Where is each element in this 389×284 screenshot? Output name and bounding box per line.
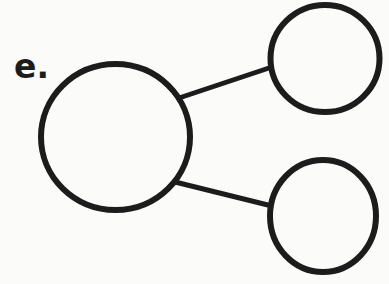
diagram-svg: e. bbox=[0, 0, 389, 284]
edge-large-circle-to-bottom-right-circle bbox=[167, 180, 280, 208]
node-top-right-circle bbox=[271, 5, 380, 112]
edge-large-circle-to-top-right-circle bbox=[170, 64, 281, 101]
figure-label: e. bbox=[14, 47, 49, 86]
worksheet-figure: e. bbox=[0, 0, 389, 284]
node-large-circle bbox=[41, 64, 190, 210]
node-bottom-right-circle bbox=[270, 160, 376, 272]
nodes-layer bbox=[41, 5, 380, 272]
